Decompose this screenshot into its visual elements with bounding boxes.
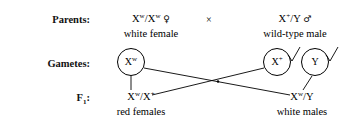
gamete-egg-xw-sup: w xyxy=(132,55,137,63)
f1-males-geno-mid: /Y xyxy=(303,91,314,102)
gamete-egg-xw-base: X xyxy=(125,56,132,67)
f1-females-phenotype: red females xyxy=(101,106,181,117)
f1-females-genotype: Xw/X+ xyxy=(101,91,181,102)
gamete-sperm-xplus-base: X xyxy=(271,56,278,67)
gamete-sperm-xplus-sup: + xyxy=(279,55,283,63)
line-crossing-dot xyxy=(217,80,219,82)
f1-females-geno-sup2: + xyxy=(151,90,155,98)
f1-females-geno-prefix: X xyxy=(127,91,135,102)
gamete-label-sperm-xplus: X+ xyxy=(262,56,292,67)
genetic-cross-diagram: Parents: Gametes: F1: Xw/Xw ♀ white fema… xyxy=(0,0,360,126)
gamete-label-sperm-y: Y xyxy=(300,56,330,67)
f1-males-geno-prefix: X xyxy=(290,91,298,102)
gamete-sperm-y-base: Y xyxy=(311,56,318,67)
gamete-label-egg-xw: Xw xyxy=(116,56,146,67)
inheritance-line-sperm-y-to-males xyxy=(303,76,312,90)
f1-males-phenotype: white males xyxy=(262,106,342,117)
f1-females-geno-mid: /X xyxy=(140,91,151,102)
f1-males-genotype: Xw/Y xyxy=(262,91,342,102)
